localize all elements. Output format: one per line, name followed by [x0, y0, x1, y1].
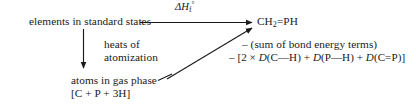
atoms-connector — [158, 74, 172, 81]
node-elements-in-standard-states: elements in standard states — [29, 15, 151, 28]
bond-energy-expression-annotation: – [2 × D(C—H) + D(P—H) + D(C=P)] — [229, 51, 405, 63]
expression-prefix: – [2 × — [229, 51, 259, 63]
node-product-formula: CH2=PH — [257, 15, 298, 29]
atomization-label-line1: heats of — [104, 38, 140, 51]
delta-h-symbol: ΔH — [175, 1, 189, 12]
bond-energy-sum-annotation: – (sum of bond energy terms) — [242, 38, 377, 51]
product-subscript-2: 2 — [273, 20, 277, 29]
thermochemical-cycle-diagram: elements in standard states CH2=PH atoms… — [0, 0, 416, 104]
product-formula-text: CH2=PH — [257, 15, 298, 27]
atomization-label-line2: atomization — [104, 51, 158, 64]
expression-plus-2: + — [354, 51, 366, 63]
expression-plus-1: + — [301, 51, 313, 63]
expression-suffix: ] — [401, 51, 405, 63]
bond-energy-arg-2: (P—H) — [321, 51, 354, 63]
bond-energy-function-2: D — [313, 51, 321, 63]
standard-state-degree-icon: ° — [192, 0, 195, 9]
node-atoms-in-gas-phase: atoms in gas phase — [71, 74, 157, 87]
bond-energy-arg-1: (C—H) — [267, 51, 301, 63]
bond-energy-function-1: D — [259, 51, 267, 63]
formation-enthalpy-label: ΔHf° — [175, 1, 195, 14]
bond-energy-arg-3: (C=P) — [374, 51, 401, 63]
node-atoms-formula: [C + P + 3H] — [71, 87, 130, 100]
bond-energy-function-3: D — [366, 51, 374, 63]
